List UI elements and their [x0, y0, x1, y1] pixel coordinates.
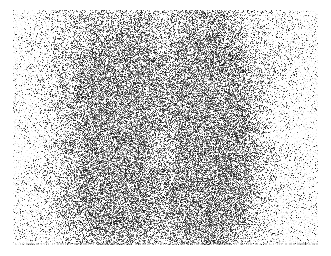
radiograph-noise-image	[0, 0, 331, 256]
scan-figure: Dense monochrome speckle field with two …	[0, 0, 331, 256]
